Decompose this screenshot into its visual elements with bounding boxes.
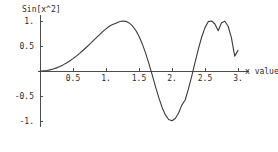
y-axis-title: Sin[x^2] xyxy=(22,5,61,14)
y-tick-label: 1. xyxy=(24,17,34,26)
x-tick-label: 0.5 xyxy=(66,74,81,83)
y-tick-label: 0.5 xyxy=(20,42,35,51)
y-tick-label: -0.5 xyxy=(15,92,34,101)
y-tick-label: -1. xyxy=(20,117,34,126)
x-tick-label: 3. xyxy=(233,74,243,83)
axes xyxy=(38,15,249,127)
x-tick-label: 1.5 xyxy=(132,74,147,83)
x-tick-label: 2.5 xyxy=(198,74,213,83)
x-axis-title: x value xyxy=(245,67,278,76)
x-tick-label: 1. xyxy=(101,74,111,83)
plot-canvas: 0.51.1.52.2.53.1.0.5-0.5-1. Sin[x^2] x v… xyxy=(0,0,278,152)
x-tick-label: 2. xyxy=(167,74,177,83)
plot-figure: 0.51.1.52.2.53.1.0.5-0.5-1. Sin[x^2] x v… xyxy=(0,0,278,152)
